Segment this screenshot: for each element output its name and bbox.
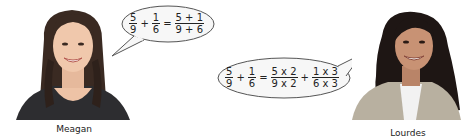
meagan-equation: 59 + 16 = 5 + 19 + 6	[128, 12, 205, 35]
fraction: 5 + 19 + 6	[175, 12, 204, 35]
fraction: 59	[225, 66, 233, 89]
lourdes-photo	[352, 6, 461, 120]
lourdes-speech-bubble: 59 + 16 = 5 x 29 x 2 + 1 x 36 x 3	[212, 50, 372, 106]
lourdes-equation: 59 + 16 = 5 x 29 x 2 + 1 x 36 x 3	[224, 66, 340, 89]
fraction: 1 x 36 x 3	[312, 66, 339, 89]
fraction: 16	[152, 12, 160, 35]
fraction: 16	[248, 66, 256, 89]
fraction: 59	[129, 12, 137, 35]
meagan-speech-bubble: 59 + 16 = 5 + 19 + 6	[108, 2, 218, 58]
lourdes-name-label: Lourdes	[378, 128, 438, 138]
meagan-name-label: Meagan	[44, 124, 104, 134]
fraction: 5 x 29 x 2	[271, 66, 298, 89]
